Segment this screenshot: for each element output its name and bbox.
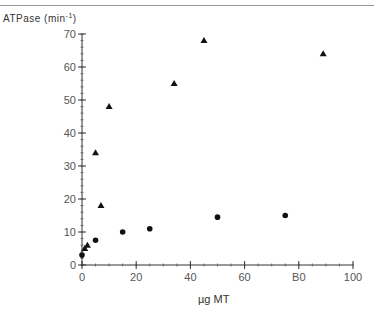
triangle-marker [97,202,104,208]
scatter-plot: 0102030405060700204060B0100 [0,0,374,318]
circle-marker [93,237,99,243]
triangle-marker [171,80,178,86]
y-tick-label: 20 [64,193,76,205]
circle-marker [147,226,153,232]
circle-marker [120,229,126,235]
triangle-marker [320,50,327,56]
y-tick-label: 40 [64,127,76,139]
circle-marker [79,252,85,258]
y-tick-label: 50 [64,94,76,106]
triangle-marker [200,37,207,43]
y-tick-label: 30 [64,160,76,172]
y-tick-label: 60 [64,61,76,73]
x-tick-label: B0 [292,271,305,283]
x-tick-label: 20 [130,271,142,283]
y-tick-label: 70 [64,28,76,40]
triangle-marker [92,149,99,155]
triangle-marker [84,242,91,248]
x-axis-label: µg MT [198,293,229,305]
x-tick-label: 0 [79,271,85,283]
x-tick-label: 40 [184,271,196,283]
x-tick-label: 100 [344,271,362,283]
y-tick-label: 0 [70,259,76,271]
triangle-marker [106,103,113,109]
circle-marker [215,214,221,220]
x-tick-label: 60 [238,271,250,283]
y-tick-label: 10 [64,226,76,238]
circle-marker [282,213,288,219]
